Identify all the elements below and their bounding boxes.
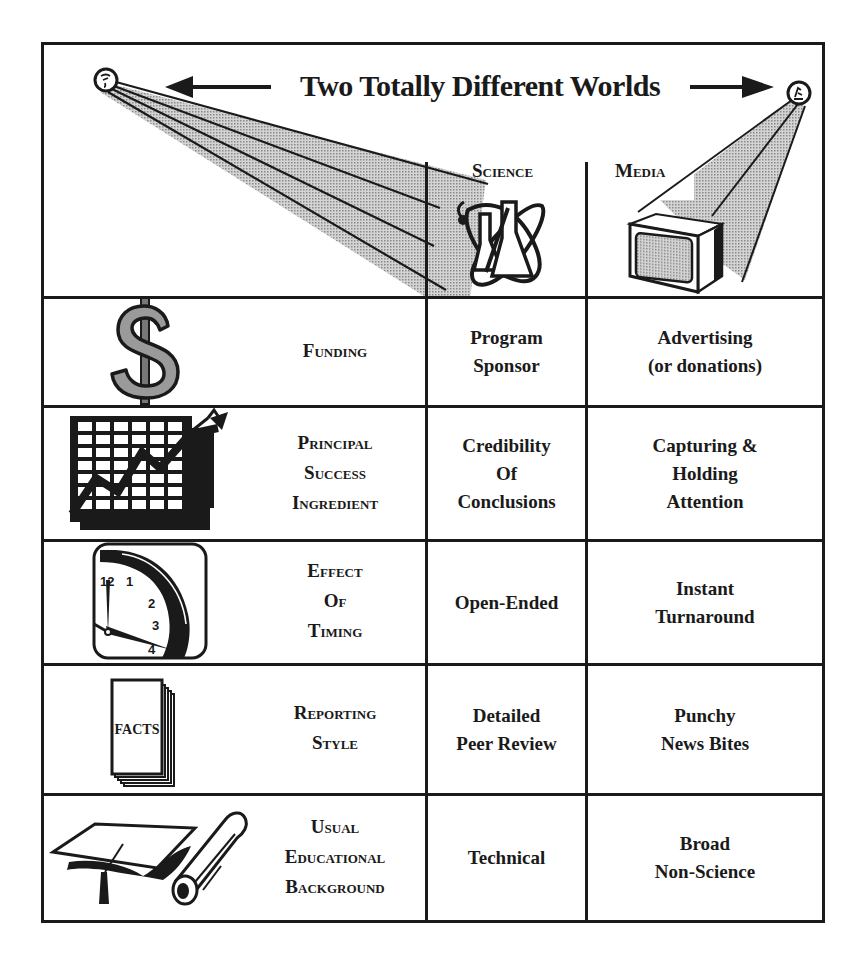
- science-cell-effect-of-timing: Open-Ended: [428, 542, 585, 663]
- graduation-cap-diploma-icon: [45, 800, 255, 910]
- media-cell-usual-educational-background: BroadNon-Science: [588, 796, 822, 920]
- left-spotlight-lamp-icon: [93, 66, 123, 96]
- media-cell-funding: Advertising(or donations): [588, 299, 822, 405]
- left-arrow-icon: [165, 76, 275, 100]
- svg-text:FACTS: FACTS: [115, 722, 160, 737]
- category-label-funding: Funding: [250, 336, 420, 366]
- rising-chart-icon: [68, 408, 243, 538]
- category-label-effect-of-timing: Effect Of Timing: [250, 556, 420, 646]
- right-arrow-icon: [690, 76, 780, 100]
- category-label-principal-success-ingredient: Principal Success Ingredient: [250, 428, 420, 518]
- svg-text:1: 1: [126, 574, 133, 589]
- right-spotlight-lamp-icon: [786, 80, 816, 110]
- media-television-icon: [628, 210, 738, 300]
- column-header-science: Science: [472, 160, 533, 182]
- clock-icon: 12 1 2 3 4: [92, 542, 210, 662]
- dollar-sign-icon: [106, 298, 186, 406]
- science-cell-reporting-style: DetailedPeer Review: [428, 666, 585, 793]
- column-header-media: Media: [615, 160, 665, 182]
- category-label-usual-educational-background: Usual Educational Background: [250, 812, 420, 902]
- media-cell-reporting-style: PunchyNews Bites: [588, 666, 822, 793]
- science-beaker-atom-icon: [450, 188, 560, 298]
- category-label-reporting-style: Reporting Style: [250, 698, 420, 758]
- diagram-title: Two Totally Different Worlds: [262, 66, 698, 106]
- science-vs-media-diagram: Two Totally Different Worlds Science Med…: [0, 0, 865, 976]
- svg-text:2: 2: [148, 596, 155, 611]
- media-cell-effect-of-timing: InstantTurnaround: [588, 542, 822, 663]
- svg-text:3: 3: [152, 618, 159, 633]
- science-cell-principal-success-ingredient: CredibilityOfConclusions: [428, 408, 585, 539]
- science-cell-funding: ProgramSponsor: [428, 299, 585, 405]
- media-cell-principal-success-ingredient: Capturing &HoldingAttention: [588, 408, 822, 539]
- facts-stack-icon: FACTS: [110, 678, 180, 790]
- science-cell-usual-educational-background: Technical: [428, 796, 585, 920]
